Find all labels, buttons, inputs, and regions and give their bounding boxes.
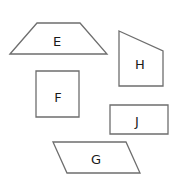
shape-e: E — [10, 23, 107, 54]
shape-h: H — [119, 31, 163, 86]
label-f: F — [54, 90, 61, 105]
label-e: E — [53, 34, 61, 49]
label-g: G — [91, 152, 101, 167]
rectangle-j — [110, 105, 168, 134]
shape-j: J — [110, 105, 168, 134]
shapes-diagram: E H F J G — [0, 0, 181, 180]
shape-f: F — [36, 71, 79, 117]
label-j: J — [134, 114, 139, 129]
shape-g: G — [53, 142, 140, 173]
label-h: H — [135, 57, 145, 72]
